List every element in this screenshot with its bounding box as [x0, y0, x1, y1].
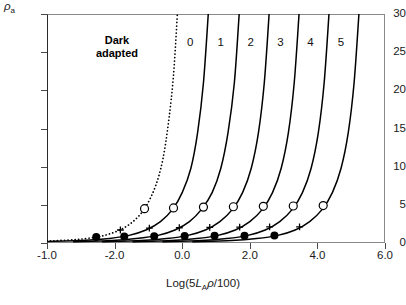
curve-label-0: 0: [187, 37, 193, 49]
marker-filled-circle: [211, 232, 219, 240]
x-tick-mark: [317, 243, 318, 249]
x-tick-mark: [47, 243, 48, 249]
marker-open-circle: [199, 203, 207, 211]
marker-open-circle: [259, 202, 267, 210]
x-tick-label: 0.0: [162, 250, 202, 262]
marker-filled-circle: [270, 232, 278, 240]
x-tick-mark: [182, 243, 183, 249]
x-tick-label: 2.0: [230, 250, 270, 262]
curve-label-5: 5: [338, 37, 344, 49]
marker-filled-circle: [240, 232, 248, 240]
marker-open-circle: [229, 203, 237, 211]
x-axis-label: Log(5LAρ/100): [0, 277, 406, 292]
marker-open-circle: [289, 202, 297, 210]
y-axis-label: ρa: [4, 0, 15, 15]
figure-chart: ρa 051015202530 -1.0-2.00.02.04.06.0 Dar…: [0, 0, 406, 305]
x-axis-label-text: Log(5LAρ/100): [166, 277, 240, 289]
marker-open-circle: [319, 202, 327, 210]
x-tick-mark: [250, 243, 251, 249]
x-tick-mark: [385, 243, 386, 249]
x-tick-label: -2.0: [95, 250, 135, 262]
x-tick-label: 6.0: [365, 250, 405, 262]
x-tick-label: -1.0: [27, 250, 67, 262]
marker-cross: [176, 224, 183, 231]
x-tick-mark: [115, 243, 116, 249]
x-tick-label: 4.0: [297, 250, 337, 262]
marker-open-circle: [141, 205, 149, 213]
curve-path: [133, 14, 299, 242]
curve-label-3: 3: [277, 37, 283, 49]
series-curve-3: [133, 14, 299, 242]
marker-cross: [146, 225, 153, 232]
y-axis-label-text: ρa: [4, 0, 15, 12]
marker-open-circle: [170, 204, 178, 212]
curve-label-1: 1: [217, 37, 223, 49]
marker-cross: [117, 227, 124, 234]
annotation-dark-adapted: Dark adapted: [86, 34, 148, 60]
curve-label-4: 4: [307, 37, 313, 49]
curve-label-2: 2: [247, 37, 253, 49]
